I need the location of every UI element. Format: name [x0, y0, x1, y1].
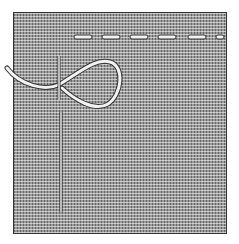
thread-and-needle [0, 0, 239, 244]
thread-loop [7, 61, 120, 106]
stitch-illustration [0, 0, 239, 244]
needle-icon [59, 56, 61, 212]
running-stitches [74, 35, 224, 39]
